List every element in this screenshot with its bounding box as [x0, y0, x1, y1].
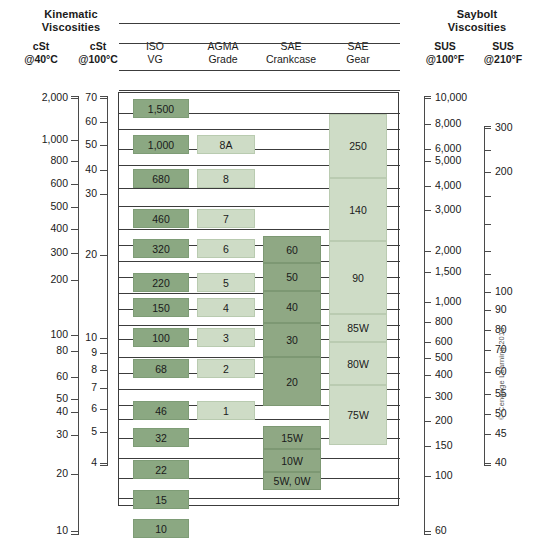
column-header-line1: SAE [250, 40, 332, 53]
column-header-sus210: SUS@210°F [472, 40, 534, 65]
sae-crankcase-bar[interactable]: 10W [263, 449, 321, 472]
sae-gear-bar[interactable]: 250 [329, 114, 387, 178]
agma-grade-bar[interactable]: 3 [197, 328, 255, 347]
agma-grade-bar[interactable]: 6 [197, 239, 255, 258]
axis-tick-label: 30 [51, 188, 97, 199]
iso-vg-bar[interactable]: 220 [133, 273, 189, 292]
axis-tick [100, 370, 107, 371]
axis-tick [71, 474, 78, 475]
axis-tick [424, 358, 431, 359]
gridline [119, 43, 400, 44]
axis-tick [424, 272, 431, 273]
axis-tick [424, 302, 431, 303]
axis-tick-label: 600 [435, 336, 487, 347]
axis-tick-label: 5 [51, 426, 97, 437]
iso-vg-bar[interactable]: 32 [133, 428, 189, 447]
sae-gear-bar[interactable]: 90 [329, 241, 387, 314]
saybolt-viscosities-title: Saybolt Viscosities [418, 8, 536, 33]
axis-tick [424, 251, 431, 252]
axis-tick-label: 10 [22, 525, 68, 536]
iso-vg-bar[interactable]: 460 [133, 209, 189, 228]
sae-gear-bar[interactable]: 85W [329, 314, 387, 342]
sae-crankcase-bar[interactable]: 20 [263, 357, 321, 406]
axis-tick [71, 377, 78, 378]
axis-tick [71, 280, 78, 281]
agma-grade-bar[interactable]: 8 [197, 169, 255, 188]
axis-tick [484, 414, 491, 415]
iso-vg-bar[interactable]: 1,000 [133, 135, 189, 154]
sae-crankcase-bar[interactable]: 15W [263, 426, 321, 449]
sae-crankcase-bar[interactable]: 50 [263, 263, 321, 291]
iso-vg-bar[interactable]: 68 [133, 359, 189, 378]
axis-tick-label: 60 [435, 525, 487, 536]
axis-tick-label: 10,000 [435, 92, 487, 103]
agma-grade-bar[interactable]: 7 [197, 209, 255, 228]
iso-vg-bar[interactable]: 15 [133, 490, 189, 509]
column-header-line1: ISO [128, 40, 182, 53]
axis-tick [424, 531, 431, 532]
axis-tick-label: 300 [435, 391, 487, 402]
sae-crankcase-bar[interactable]: 5W, 0W [263, 472, 321, 490]
gridline [119, 458, 400, 459]
sae-gear-bar[interactable]: 140 [329, 178, 387, 241]
axis-tick-label: 200 [435, 415, 487, 426]
column-header-line2: Crankcase [250, 53, 332, 66]
axis-tick [424, 476, 431, 477]
iso-vg-bar[interactable]: 1,500 [133, 99, 189, 118]
axis-tick-label: 3,000 [435, 204, 487, 215]
agma-grade-bar[interactable]: 8A [197, 135, 255, 154]
column-header-line2: Gear [330, 53, 386, 66]
saybolt-title-line2: Viscosities [418, 21, 536, 34]
axis-spine [78, 96, 79, 535]
axis-tick [71, 161, 78, 162]
sae-crankcase-bar[interactable]: 40 [263, 291, 321, 323]
agma-grade-bar[interactable]: 5 [197, 273, 255, 292]
axis-tick [484, 350, 491, 351]
axis-tick [484, 434, 491, 435]
axis-tick-label: 10 [51, 332, 97, 343]
axis-tick-label: 5,000 [435, 155, 487, 166]
column-header-line1: SUS [414, 40, 476, 53]
axis-tick [424, 186, 431, 187]
iso-vg-bar[interactable]: 680 [133, 169, 189, 188]
sae-gear-bar[interactable]: 80W [329, 342, 387, 385]
axis-sus-210f: 3002001009080706055504540 [484, 126, 485, 466]
axis-tick [484, 394, 491, 395]
axis-tick-label: 45 [495, 428, 536, 439]
axis-tick-label: 70 [51, 92, 97, 103]
gridline [119, 90, 400, 91]
axis-tick-label: 1,000 [435, 296, 487, 307]
sae-gear-bar[interactable]: 75W [329, 385, 387, 445]
axis-tick [424, 210, 431, 211]
iso-vg-bar[interactable]: 46 [133, 401, 189, 420]
axis-tick-label: 8,000 [435, 118, 487, 129]
axis-tick [484, 330, 491, 331]
axis-end-cap [424, 96, 431, 97]
iso-vg-bar[interactable]: 100 [133, 328, 189, 347]
sae-crankcase-bar[interactable]: 60 [263, 236, 321, 263]
axis-tick-label: 4,000 [435, 180, 487, 191]
axis-tick-label: 1,500 [435, 266, 487, 277]
axis-tick [100, 194, 107, 195]
iso-vg-bar[interactable]: 320 [133, 239, 189, 258]
axis-tick-label: 40 [51, 164, 97, 175]
agma-grade-bar[interactable]: 2 [197, 359, 255, 378]
viscosity-comparison-chart: Kinematic Viscosities Saybolt Viscositie… [0, 0, 536, 560]
axis-tick [100, 353, 107, 354]
iso-vg-bar[interactable]: 22 [133, 460, 189, 479]
agma-grade-bar[interactable]: 1 [197, 401, 255, 420]
column-header-line2: Grade [192, 53, 254, 66]
iso-vg-bar[interactable]: 150 [133, 298, 189, 317]
axis-tick-label: 20 [22, 468, 68, 479]
axis-sus-100f: 10,0008,0006,0005,0004,0003,0002,0001,50… [424, 96, 425, 535]
axis-tick [424, 375, 431, 376]
axis-tick-label: 7 [51, 382, 97, 393]
iso-vg-bar[interactable]: 10 [133, 519, 189, 538]
axis-tick-label: 300 [495, 122, 536, 133]
axis-tick [100, 409, 107, 410]
agma-grade-bar[interactable]: 4 [197, 298, 255, 317]
column-header-line1: AGMA [192, 40, 254, 53]
axis-tick-label: 90 [495, 304, 536, 315]
sae-crankcase-bar[interactable]: 30 [263, 323, 321, 357]
axis-tick [71, 229, 78, 230]
